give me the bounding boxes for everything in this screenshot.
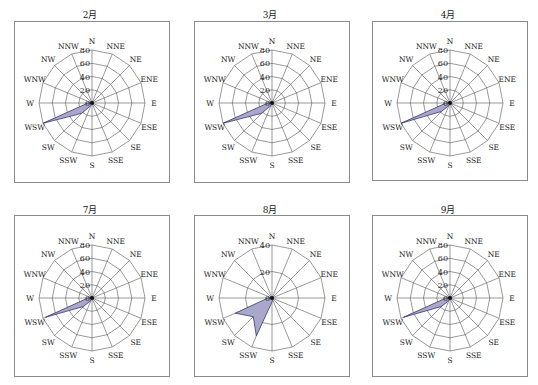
center-dot (448, 296, 452, 300)
direction-label: ENE (141, 270, 159, 279)
center-dot (90, 296, 94, 300)
tick-label: 60 (438, 254, 448, 263)
grid-spoke (92, 298, 129, 335)
grid-spoke (450, 103, 487, 140)
grid-spoke (413, 66, 450, 103)
direction-label: S (89, 356, 94, 365)
tick-label: 20 (80, 281, 90, 290)
direction-label: S (89, 161, 94, 170)
direction-label: ESE (141, 318, 157, 327)
tick-label: 40 (80, 268, 90, 277)
direction-label: SSE (466, 351, 482, 360)
radar-chart: 02040NNNENEENEEESESESSESSSWSWWSWWWNWNWNN… (180, 203, 360, 383)
direction-label: SSE (466, 156, 482, 165)
direction-label: N (447, 232, 454, 241)
center-dot (270, 296, 274, 300)
chart-panel-mar: 3月 020406080NNNENEENEEESESESSESSSWSWWSWW… (180, 8, 360, 188)
tick-label: 60 (260, 59, 270, 68)
direction-label: WSW (204, 318, 225, 327)
direction-label: NW (221, 55, 236, 64)
direction-label: NNW (238, 237, 259, 246)
tick-label: 80 (438, 46, 448, 55)
direction-label: NW (399, 55, 414, 64)
grid-spoke (272, 298, 309, 335)
direction-label: W (384, 99, 392, 108)
grid-spoke (55, 261, 92, 298)
direction-label: SSE (108, 351, 124, 360)
tick-label: 0 (265, 294, 270, 303)
direction-label: SSE (108, 156, 124, 165)
tick-label: 40 (260, 241, 270, 250)
grid-spoke (450, 66, 487, 103)
direction-label: N (269, 37, 276, 46)
tick-label: 20 (438, 281, 448, 290)
direction-label: SE (310, 338, 321, 347)
tick-label: 60 (438, 59, 448, 68)
tick-label: 0 (85, 294, 90, 303)
direction-label: S (447, 161, 452, 170)
direction-label: NNE (464, 237, 483, 246)
direction-label: W (26, 294, 34, 303)
direction-label: S (269, 356, 274, 365)
direction-label: N (89, 232, 96, 241)
chart-panel-jul: 7月 020406080NNNENEENEEESESESSESSSWSWWSWW… (0, 203, 180, 383)
direction-label: WNW (204, 75, 226, 84)
grid-spoke (235, 261, 272, 298)
direction-label: NNW (58, 237, 79, 246)
direction-label: E (509, 99, 514, 108)
direction-label: SSW (239, 156, 257, 165)
grid-spoke (92, 66, 129, 103)
direction-label: SSW (59, 351, 77, 360)
direction-label: E (331, 294, 336, 303)
tick-label: 0 (443, 99, 448, 108)
grid-spoke (450, 298, 487, 335)
direction-label: E (509, 294, 514, 303)
direction-label: WNW (204, 270, 226, 279)
tick-label: 20 (260, 268, 270, 277)
direction-label: NE (310, 250, 322, 259)
direction-label: W (26, 99, 34, 108)
tick-label: 0 (443, 294, 448, 303)
direction-label: N (269, 232, 276, 241)
direction-label: NNE (106, 42, 125, 51)
direction-label: NNE (286, 237, 305, 246)
tick-label: 20 (80, 86, 90, 95)
grid-spoke (92, 103, 129, 140)
direction-label: N (447, 37, 454, 46)
tick-label: 0 (265, 99, 270, 108)
radar-chart: 020406080NNNENEENEEESESESSESSSWSWWSWWWNW… (358, 203, 538, 383)
direction-label: NNE (464, 42, 483, 51)
direction-label: ESE (321, 123, 337, 132)
direction-label: WSW (24, 123, 45, 132)
direction-label: N (89, 37, 96, 46)
direction-label: ENE (499, 75, 517, 84)
direction-label: WNW (24, 75, 46, 84)
grid-spoke (450, 261, 487, 298)
direction-label: NW (399, 250, 414, 259)
direction-label: S (447, 356, 452, 365)
direction-label: ENE (321, 75, 339, 84)
direction-label: SW (222, 143, 235, 152)
direction-label: SSW (239, 351, 257, 360)
direction-label: W (206, 294, 214, 303)
chart-panel-feb: 2月 020406080NNNENEENEEESESESSESSSWSWWSWW… (0, 8, 180, 188)
direction-label: SE (130, 143, 141, 152)
direction-label: W (384, 294, 392, 303)
direction-label: SSW (417, 156, 435, 165)
direction-label: WSW (24, 318, 45, 327)
direction-label: ESE (141, 123, 157, 132)
radar-chart: 020406080NNNENEENEEESESESSESSSWSWWSWWWNW… (180, 8, 360, 188)
direction-label: E (151, 294, 156, 303)
direction-label: NNE (106, 237, 125, 246)
tick-label: 80 (80, 241, 90, 250)
grid-spoke (272, 261, 309, 298)
direction-label: NE (488, 55, 500, 64)
direction-label: NE (130, 55, 142, 64)
direction-label: E (151, 99, 156, 108)
grid-spoke (92, 261, 129, 298)
tick-label: 20 (438, 86, 448, 95)
tick-label: 80 (80, 46, 90, 55)
tick-label: 20 (260, 86, 270, 95)
direction-label: SW (400, 338, 413, 347)
center-dot (90, 101, 94, 105)
